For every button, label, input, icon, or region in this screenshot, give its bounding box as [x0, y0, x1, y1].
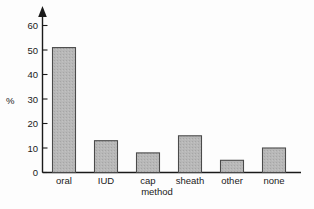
y-tick-label-20: 20 [12, 118, 38, 129]
y-tick-label-60: 60 [12, 20, 38, 31]
x-tick-label-cap: cap [124, 175, 172, 186]
y-tick-label-10: 10 [12, 143, 38, 154]
y-axis-ticks [43, 26, 48, 173]
x-tick-label-other: other [208, 175, 256, 186]
x-tick-label-none: none [250, 175, 298, 186]
y-tick-label-50: 50 [12, 45, 38, 56]
x-tick-label-sheath: sheath [166, 175, 214, 186]
x-axis-title: method [0, 186, 314, 197]
y-tick-label-0: 0 [12, 167, 38, 178]
bar-oral [53, 48, 76, 173]
y-tick-label-30: 30 [12, 94, 38, 105]
x-tick-label-iud: IUD [82, 175, 130, 186]
x-tick-label-oral: oral [40, 175, 88, 186]
bar-other [221, 160, 244, 172]
y-axis-title: % [6, 95, 14, 106]
bar-cap [137, 153, 160, 173]
bar-none [263, 148, 286, 173]
bars-group [53, 48, 286, 173]
y-tick-label-40: 40 [12, 69, 38, 80]
up-arrow-icon [38, 6, 47, 17]
bar-sheath [179, 136, 202, 173]
bar-chart: 0 10 20 30 40 50 60 oral IUD cap sheath … [0, 0, 314, 209]
bar-iud [95, 141, 118, 173]
